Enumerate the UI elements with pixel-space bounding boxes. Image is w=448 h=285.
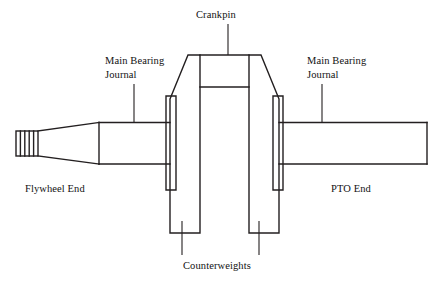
label-main-bearing-journal-right-line2: Journal [307, 68, 377, 82]
taper-top-edge [38, 123, 99, 132]
label-main-bearing-journal-left: Main Bearing Journal [105, 54, 175, 81]
taper-bottom-edge [38, 156, 99, 164]
crankshaft-drawing [0, 0, 448, 285]
label-flywheel-end: Flywheel End [25, 182, 85, 195]
label-main-bearing-journal-left-line2: Journal [105, 68, 175, 82]
left-journal-collar [166, 96, 176, 190]
right-counterweight [249, 55, 279, 233]
label-main-bearing-journal-right-line1: Main Bearing [307, 54, 377, 68]
label-crankpin: Crankpin [196, 8, 236, 21]
crankshaft-geometry [16, 55, 427, 233]
label-pto-end: PTO End [331, 182, 371, 195]
spline-block [16, 131, 38, 156]
label-counterweights: Counterweights [183, 259, 251, 272]
left-counterweight [170, 55, 200, 233]
right-journal-collar [273, 96, 283, 190]
label-main-bearing-journal-left-line1: Main Bearing [105, 54, 175, 68]
crankshaft-diagram: Crankpin Main Bearing Journal Main Beari… [0, 0, 448, 285]
label-main-bearing-journal-right: Main Bearing Journal [307, 54, 377, 81]
